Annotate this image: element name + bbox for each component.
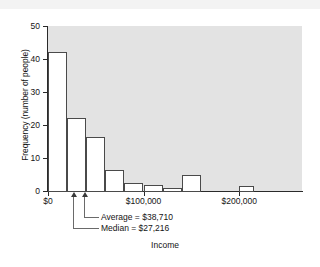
- income-histogram-figure: 0 10 20 30 40 50 $0 $100,000 $200,000 Av…: [0, 0, 320, 267]
- y-tick-mark: [43, 26, 48, 27]
- histogram-bar: [182, 175, 201, 192]
- x-tick-label: $100,000: [109, 196, 179, 206]
- histogram-bar: [124, 183, 143, 192]
- top-border-band: [0, 0, 320, 9]
- histogram-bar: [144, 185, 163, 192]
- y-axis-title: Frequency (number of people): [20, 20, 30, 190]
- histogram-bar: [239, 186, 253, 192]
- histogram-bar: [48, 52, 67, 192]
- histogram-bar: [86, 137, 105, 192]
- average-leader-vertical: [84, 197, 85, 217]
- average-annotation-label: Average = $38,710: [101, 212, 173, 222]
- histogram-bar: [105, 170, 124, 192]
- median-annotation-label: Median = $27,216: [101, 223, 169, 233]
- median-arrow-icon: [71, 192, 77, 197]
- histogram-bar: [67, 118, 86, 192]
- median-leader-vertical: [73, 197, 74, 228]
- average-arrow-icon: [82, 192, 88, 197]
- x-tick-label: $200,000: [204, 196, 274, 206]
- average-leader-horizontal: [84, 217, 99, 218]
- x-axis-title: Income: [110, 240, 220, 250]
- median-leader-horizontal: [73, 228, 99, 229]
- histogram-bar: [163, 188, 182, 192]
